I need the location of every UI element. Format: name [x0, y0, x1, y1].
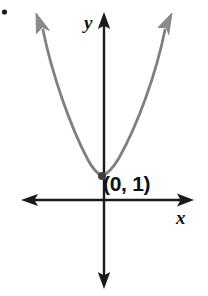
parabola-figure: y x (0, 1): [0, 0, 208, 296]
graph-canvas: [0, 0, 208, 296]
parabola-left-arm: [43, 30, 102, 176]
y-axis: [98, 12, 110, 289]
vertex-coordinate-label: (0, 1): [103, 173, 150, 194]
x-axis: [21, 194, 194, 207]
x-axis-label: x: [176, 208, 186, 227]
list-bullet-icon: [2, 9, 7, 14]
y-axis-label: y: [84, 13, 92, 32]
parabola-right-arm: [102, 30, 165, 176]
